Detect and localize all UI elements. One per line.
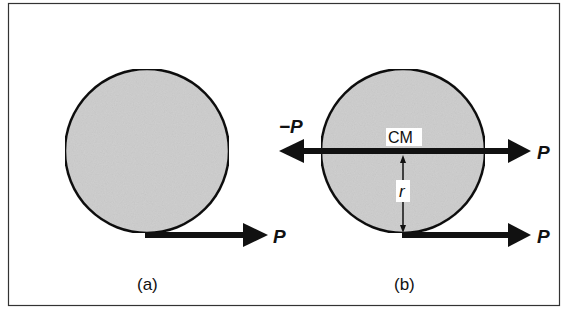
force-label-p-bottom: P: [537, 226, 550, 247]
caption-b: (b): [394, 275, 415, 294]
cm-label: CM: [388, 129, 413, 146]
disk-a: [65, 69, 229, 233]
caption-a: (a): [137, 275, 158, 294]
force-label-minus-p: −P: [279, 116, 303, 137]
force-diagram: P (a) CM −P P r P (b): [0, 0, 567, 316]
force-label-p: P: [273, 226, 286, 247]
force-label-p-top: P: [537, 142, 550, 163]
